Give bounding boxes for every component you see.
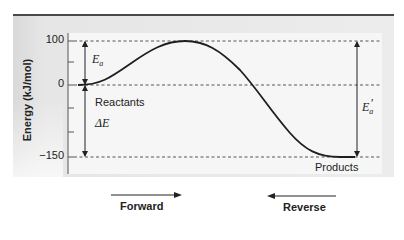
forward-label: Forward [120,200,163,212]
ea-prime-label: Ea′ [362,100,376,116]
tick-label-0: 0 [24,77,64,89]
delta-e-label: ΔE [95,116,109,131]
ea-arrow-head-top [82,41,88,47]
ea-prime-arrow-head-top [354,41,360,47]
y-axis-label: Energy (kJ/mol) [21,59,33,142]
ea-label: Ea [92,52,103,68]
ea-prime-mark: ′ [370,96,373,110]
tick-label-100: 100 [24,33,64,45]
delta-e-arrow-head-top [82,85,88,91]
delta-e-arrow-head-bottom [82,151,88,157]
tick-label-neg150: −150 [24,149,64,161]
ea-label-sub: a [99,59,103,68]
y-ticks [68,41,74,157]
reverse-label: Reverse [283,201,326,213]
forward-arrow-head [174,192,182,198]
products-label: Products [315,161,358,173]
reactants-label: Reactants [95,96,145,108]
reverse-arrow-head [267,193,275,199]
